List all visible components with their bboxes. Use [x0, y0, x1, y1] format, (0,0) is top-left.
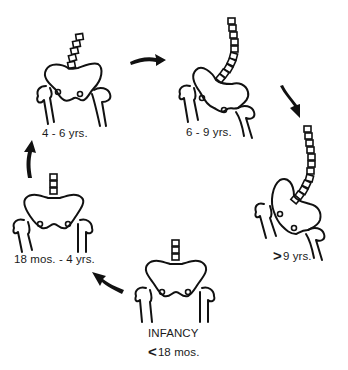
stage-label-18mos-4yrs: 18 mos. - 4 yrs. — [14, 253, 95, 265]
development-cycle-diagram: 4 - 6 yrs. 6 - 9 yrs. — [0, 0, 348, 370]
pelvis-outline — [24, 195, 83, 229]
arrow-up-left-icon — [88, 270, 128, 300]
pelvis-figure-infancy — [128, 236, 224, 328]
spine-icon — [172, 240, 179, 260]
stage-label-4-6yrs: 4 - 6 yrs. — [42, 127, 88, 139]
stage-label-over9yrs: >9 yrs. — [273, 248, 312, 263]
spine-icon — [50, 174, 57, 194]
pelvis-figure-over9yrs — [250, 122, 348, 262]
pelvis-outline — [146, 261, 206, 297]
pelvis-figure-18mos-4yrs — [4, 172, 102, 256]
spine-icon — [68, 33, 84, 68]
spine-icon — [216, 18, 238, 83]
pelvis-figure-6-9yrs — [172, 14, 268, 134]
stage-label-infancy-age: <18 mos. — [148, 344, 199, 359]
arrow-right-icon — [128, 52, 168, 72]
arrow-up-icon — [20, 140, 40, 180]
less-than-symbol: < — [148, 343, 157, 360]
greater-than-symbol: > — [273, 247, 282, 264]
stage-label-infancy: INFANCY — [148, 327, 199, 339]
pelvis-figure-4-6yrs — [22, 28, 118, 128]
arrow-down-right-icon — [276, 84, 306, 120]
stage-label-6-9yrs: 6 - 9 yrs. — [186, 126, 232, 138]
